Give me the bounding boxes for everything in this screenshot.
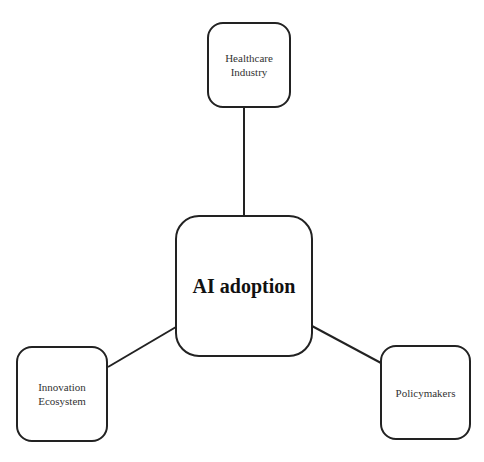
node-label: Policymakers	[396, 386, 456, 400]
node-healthcare-industry: Healthcare Industry	[207, 22, 291, 108]
edge-innovation	[108, 327, 176, 367]
center-label: AI adoption	[193, 274, 296, 298]
node-label: Innovation Ecosystem	[38, 380, 86, 408]
node-ai-adoption: AI adoption	[175, 215, 313, 357]
node-policymakers: Policymakers	[380, 345, 471, 440]
node-innovation-ecosystem: Innovation Ecosystem	[16, 346, 108, 442]
edge-policymakers	[312, 326, 381, 363]
node-label: Healthcare Industry	[225, 51, 273, 79]
